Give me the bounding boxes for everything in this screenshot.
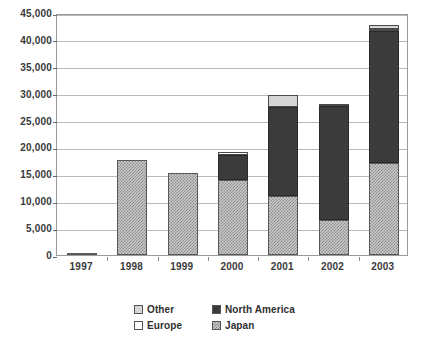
- gridline: [57, 95, 407, 96]
- legend-item-other[interactable]: Other: [134, 302, 174, 317]
- y-tickmark: [53, 95, 57, 96]
- y-axis-tick-label: 45,000: [0, 9, 52, 19]
- x-axis-tick-label: 1998: [109, 261, 153, 273]
- legend-swatch-europe-icon: [134, 321, 143, 330]
- y-axis-tick-label: 5,000: [0, 224, 52, 234]
- legend-swatch-japan-icon: [212, 321, 221, 330]
- y-axis-tick-label: 35,000: [0, 63, 52, 73]
- y-tickmark: [53, 257, 57, 258]
- gridline: [57, 122, 407, 123]
- legend-item-europe[interactable]: Europe: [134, 318, 182, 333]
- y-axis: 05,00010,00015,00020,00025,00030,00035,0…: [0, 0, 52, 343]
- y-tickmark: [53, 41, 57, 42]
- gridline: [57, 15, 407, 16]
- legend-label: Japan: [225, 320, 254, 331]
- bar-segment-europe[interactable]: [218, 152, 248, 155]
- x-axis-tick-label: 2002: [311, 261, 355, 273]
- legend-label: Other: [147, 304, 174, 315]
- bar-segment-japan[interactable]: [218, 180, 248, 255]
- y-tickmark: [53, 68, 57, 69]
- bar-segment-japan[interactable]: [67, 253, 97, 255]
- gridline: [57, 149, 407, 150]
- bar-segment-northamerica[interactable]: [369, 31, 399, 163]
- legend-item-northamerica[interactable]: North America: [212, 302, 295, 317]
- x-axis-tick-label: 1999: [160, 261, 204, 273]
- y-axis-tick-label: 40,000: [0, 36, 52, 46]
- gridline: [57, 68, 407, 69]
- bar-segment-northamerica[interactable]: [319, 106, 349, 220]
- y-tickmark: [53, 176, 57, 177]
- y-tickmark: [53, 15, 57, 16]
- stacked-bar-chart: 05,00010,00015,00020,00025,00030,00035,0…: [0, 0, 422, 343]
- legend-swatch-northamerica-icon: [212, 305, 221, 314]
- legend-label: North America: [225, 304, 295, 315]
- bar-segment-japan[interactable]: [268, 196, 298, 255]
- y-axis-tick-label: 10,000: [0, 197, 52, 207]
- plot-area: [56, 14, 408, 256]
- bar-segment-japan[interactable]: [117, 160, 147, 255]
- y-axis-tick-label: 30,000: [0, 90, 52, 100]
- x-axis: 1997199819992000200120022003: [56, 261, 408, 279]
- y-axis-tick-label: 15,000: [0, 170, 52, 180]
- bar-segment-japan[interactable]: [168, 173, 198, 255]
- bar-segment-europe[interactable]: [369, 29, 399, 32]
- legend-item-japan[interactable]: Japan: [212, 318, 254, 333]
- gridline: [57, 41, 407, 42]
- chart-legend: OtherNorth AmericaEuropeJapan: [134, 302, 344, 334]
- y-axis-tick-label: 20,000: [0, 143, 52, 153]
- bar-segment-other[interactable]: [268, 95, 298, 107]
- legend-row: OtherNorth America: [134, 302, 344, 317]
- x-axis-tick-label: 1997: [59, 261, 103, 273]
- bar-segment-japan[interactable]: [369, 163, 399, 255]
- x-axis-tick-label: 2000: [210, 261, 254, 273]
- y-tickmark: [53, 203, 57, 204]
- y-tickmark: [53, 230, 57, 231]
- bar-segment-other[interactable]: [369, 25, 399, 29]
- y-axis-tick-label: 25,000: [0, 117, 52, 127]
- x-axis-tick-label: 2003: [361, 261, 405, 273]
- x-axis-tick-label: 2001: [260, 261, 304, 273]
- bar-segment-northamerica[interactable]: [218, 155, 248, 180]
- y-tickmark: [53, 122, 57, 123]
- bar-segment-europe[interactable]: [319, 104, 349, 106]
- bar-segment-northamerica[interactable]: [268, 107, 298, 196]
- bar-segment-japan[interactable]: [319, 220, 349, 255]
- y-axis-tick-label: 0: [0, 251, 52, 261]
- legend-label: Europe: [147, 320, 182, 331]
- y-tickmark: [53, 149, 57, 150]
- legend-swatch-other-icon: [134, 305, 143, 314]
- legend-row: EuropeJapan: [134, 318, 344, 333]
